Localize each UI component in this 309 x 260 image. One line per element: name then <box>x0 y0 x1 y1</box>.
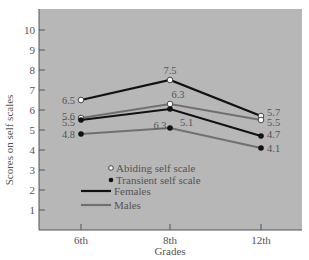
x-axis-title: Grades <box>154 245 185 257</box>
data-label: 4.8 <box>62 129 75 140</box>
legend-label: Abiding self scale <box>116 162 196 174</box>
y-tick-label: 4 <box>30 144 36 156</box>
filled-circle-marker <box>78 117 84 123</box>
legend-label: Females <box>114 185 151 197</box>
filled-circle-marker <box>258 145 264 151</box>
open-circle-marker <box>78 97 84 103</box>
y-tick-label: 10 <box>24 24 36 36</box>
y-tick-label: 6 <box>30 104 36 116</box>
data-label: 4.7 <box>267 129 280 140</box>
line-chart: 12345678910 6th8th12th 6.57.55.75.66.35.… <box>0 0 309 260</box>
filled-circle-marker <box>258 133 264 139</box>
filled-circle-marker <box>167 106 173 112</box>
x-tick-label: 6th <box>74 234 89 246</box>
data-label: 6.3 <box>153 120 166 131</box>
y-tick-label: 1 <box>30 204 36 216</box>
y-axis-title: Scores on self scales <box>3 95 15 186</box>
y-tick-label: 2 <box>30 184 36 196</box>
data-label: 6.5 <box>62 95 75 106</box>
data-label: 6.3 <box>171 89 184 100</box>
data-label: 5.5 <box>62 117 75 128</box>
y-tick-label: 8 <box>30 64 36 76</box>
data-label: 4.1 <box>267 143 280 154</box>
open-circle-marker <box>167 101 173 107</box>
data-label: 7.5 <box>163 65 176 76</box>
legend-label: Males <box>114 199 141 211</box>
y-tick-label: 3 <box>30 164 36 176</box>
filled-circle-marker <box>167 125 173 131</box>
y-tick-label: 9 <box>30 44 36 56</box>
filled-circle-marker <box>78 131 84 137</box>
y-tick-label: 7 <box>30 84 36 96</box>
y-tick-label: 5 <box>30 124 36 136</box>
abiding-marker-icon <box>109 166 114 171</box>
open-circle-marker <box>258 117 264 123</box>
open-circle-marker <box>167 77 173 83</box>
transient-marker-icon <box>109 178 114 183</box>
x-tick-label: 12th <box>251 234 271 246</box>
data-label: 5.5 <box>267 117 280 128</box>
data-label: 5.1 <box>180 117 193 128</box>
